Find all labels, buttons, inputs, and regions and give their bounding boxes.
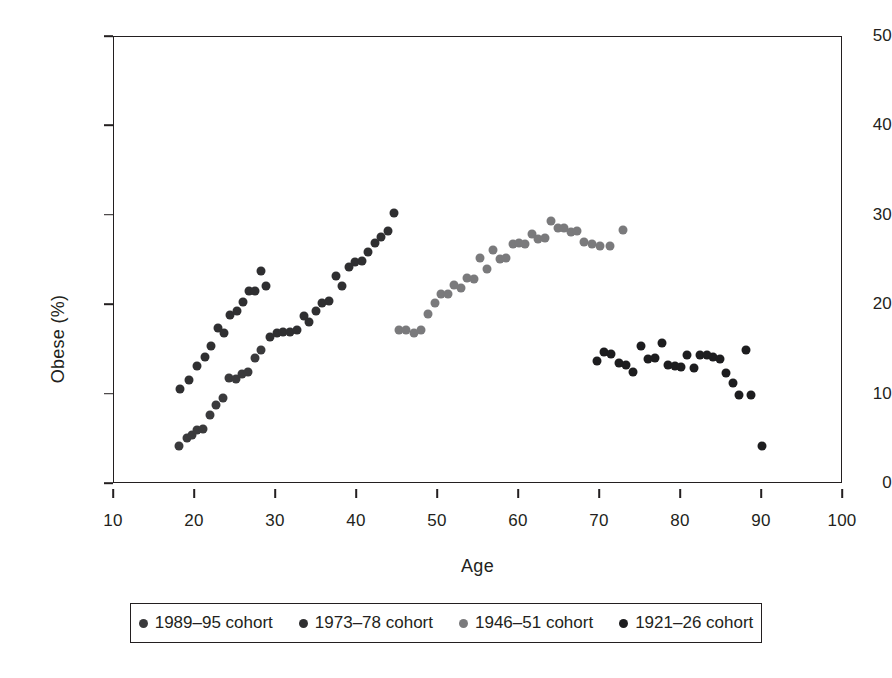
data-point (592, 356, 601, 365)
data-point (205, 411, 214, 420)
data-point (200, 353, 209, 362)
data-point (502, 253, 511, 262)
x-tick-label: 10 (103, 511, 122, 531)
data-point (383, 226, 392, 235)
data-point (715, 354, 724, 363)
data-point (218, 394, 227, 403)
data-point (677, 362, 686, 371)
x-tick-mark (679, 489, 681, 498)
x-tick-label: 80 (670, 511, 689, 531)
x-tick-mark (436, 489, 438, 498)
data-point (728, 378, 737, 387)
data-point (364, 248, 373, 257)
data-point (489, 245, 498, 254)
data-point (338, 281, 347, 290)
data-point (244, 368, 253, 377)
legend-label: 1973–78 cohort (315, 613, 433, 633)
data-point (469, 275, 478, 284)
legend-marker-icon (299, 619, 308, 628)
y-tick-mark (104, 125, 113, 127)
data-point (482, 264, 491, 273)
data-point (257, 345, 266, 354)
data-point (746, 390, 755, 399)
x-tick-mark (355, 489, 357, 498)
data-point (212, 401, 221, 410)
y-tick-mark (104, 214, 113, 216)
legend-entry[interactable]: 1989–95 cohort (139, 613, 273, 633)
data-point (456, 284, 465, 293)
x-tick-mark (841, 489, 843, 498)
data-point (357, 256, 366, 265)
y-tick-mark (104, 303, 113, 305)
data-point (305, 318, 314, 327)
legend-label: 1989–95 cohort (155, 613, 273, 633)
data-point (540, 234, 549, 243)
x-tick-label: 50 (427, 511, 446, 531)
y-tick-mark (104, 35, 113, 37)
legend-marker-icon (619, 619, 628, 628)
data-point (174, 442, 183, 451)
data-point (416, 326, 425, 335)
x-tick-label: 70 (589, 511, 608, 531)
data-point (735, 391, 744, 400)
data-point (722, 369, 731, 378)
legend-marker-icon (139, 619, 148, 628)
data-point (573, 226, 582, 235)
x-tick-mark (193, 489, 195, 498)
data-point (607, 350, 616, 359)
data-point (193, 361, 202, 370)
legend-entry[interactable]: 1921–26 cohort (619, 613, 753, 633)
plot-area (113, 36, 842, 483)
data-point (233, 306, 242, 315)
legend-entry[interactable]: 1946–51 cohort (459, 613, 593, 633)
data-point (657, 338, 666, 347)
legend-label: 1946–51 cohort (475, 613, 593, 633)
data-point (390, 209, 399, 218)
x-tick-label: 60 (508, 511, 527, 531)
data-point (424, 310, 433, 319)
data-point (262, 281, 271, 290)
data-point (199, 424, 208, 433)
data-point (175, 385, 184, 394)
y-axis-label: Obese (%) (48, 295, 69, 384)
data-point (596, 242, 605, 251)
data-point (331, 271, 340, 280)
x-tick-label: 40 (346, 511, 365, 531)
data-point (683, 351, 692, 360)
data-point (636, 342, 645, 351)
legend-label: 1921–26 cohort (635, 613, 753, 633)
data-point (758, 441, 767, 450)
data-point (651, 353, 660, 362)
data-point (250, 353, 259, 362)
x-tick-label: 20 (184, 511, 203, 531)
legend-marker-icon (459, 619, 468, 628)
x-tick-mark (760, 489, 762, 498)
data-point (629, 368, 638, 377)
x-tick-label: 100 (828, 511, 857, 531)
data-point (741, 345, 750, 354)
data-point (443, 290, 452, 299)
data-point (257, 267, 266, 276)
data-point (185, 376, 194, 385)
data-point (476, 253, 485, 262)
x-tick-mark (274, 489, 276, 498)
x-axis-label: Age (113, 556, 842, 577)
data-point (238, 297, 247, 306)
data-point (605, 242, 614, 251)
x-tick-label: 30 (265, 511, 284, 531)
y-tick-mark (104, 482, 113, 484)
data-point (325, 296, 334, 305)
data-point (618, 226, 627, 235)
legend-entry[interactable]: 1973–78 cohort (299, 613, 433, 633)
data-point (521, 239, 530, 248)
data-point (207, 342, 216, 351)
data-point (250, 286, 259, 295)
x-axis-ticks: 102030405060708090100 (0, 489, 892, 529)
data-point (689, 363, 698, 372)
x-tick-label: 90 (751, 511, 770, 531)
y-tick-mark (104, 393, 113, 395)
data-point (293, 326, 302, 335)
scatter-chart-figure: Obese (%) 01020304050 102030405060708090… (0, 0, 892, 678)
data-point (430, 298, 439, 307)
x-tick-mark (517, 489, 519, 498)
